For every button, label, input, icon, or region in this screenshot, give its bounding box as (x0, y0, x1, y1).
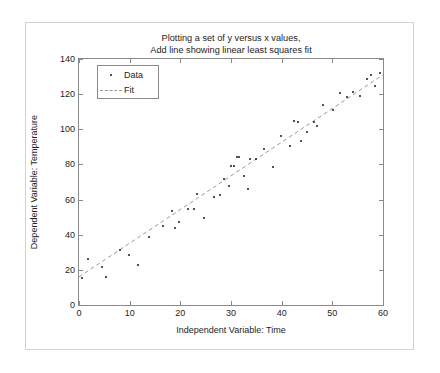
legend-item-fit[interactable]: Fit (98, 82, 158, 98)
data-point (370, 74, 372, 76)
y-axis-tick-label: 140 (60, 54, 75, 64)
data-point (196, 193, 198, 195)
x-axis-tick-label: 50 (327, 308, 337, 318)
chart-title: Plotting a set of y versus x values, Add… (78, 33, 384, 56)
legend-label-fit: Fit (124, 85, 134, 95)
data-point (81, 277, 83, 279)
data-point (230, 165, 232, 167)
legend-marker-dot-icon (98, 69, 124, 81)
data-point (306, 131, 308, 133)
y-axis-tick (379, 305, 383, 306)
data-point (128, 254, 130, 256)
data-point (171, 210, 173, 212)
x-axis-tick (383, 301, 384, 305)
data-point (280, 135, 282, 137)
y-axis-tick (79, 305, 83, 306)
chart-title-line-1: Plotting a set of y versus x values, (78, 33, 384, 45)
data-point (223, 178, 225, 180)
x-axis-tick-label: 10 (125, 308, 135, 318)
data-point (105, 276, 107, 278)
y-axis-label: Dependent Variable: Temperature (29, 115, 39, 249)
data-point (272, 166, 274, 168)
y-axis-tick-label: 100 (60, 124, 75, 134)
y-axis-tick-label: 0 (70, 300, 75, 310)
data-point (374, 85, 376, 87)
y-axis-tick-label: 40 (65, 230, 75, 240)
y-axis-tick-label: 80 (65, 159, 75, 169)
data-point (137, 264, 139, 266)
data-point (359, 95, 361, 97)
data-point (297, 121, 299, 123)
data-point (293, 120, 295, 122)
data-point (346, 96, 348, 98)
data-point (366, 78, 368, 80)
data-point (379, 72, 381, 74)
data-point (339, 92, 341, 94)
data-point (174, 227, 176, 229)
data-point (228, 185, 230, 187)
data-point (313, 121, 315, 123)
plot-area: 0204060801001201400102030405060 Data Fit (78, 58, 384, 306)
data-point (300, 140, 302, 142)
x-axis-tick-label: 60 (378, 308, 388, 318)
x-axis-tick-label: 30 (226, 308, 236, 318)
data-point (219, 194, 221, 196)
data-point (243, 175, 245, 177)
x-axis-tick-label: 20 (175, 308, 185, 318)
legend-item-data[interactable]: Data (98, 67, 158, 83)
data-point (322, 104, 324, 106)
legend-label-data: Data (124, 70, 143, 80)
data-point (101, 266, 103, 268)
x-axis-tick-label: 40 (277, 308, 287, 318)
data-point (316, 125, 318, 127)
data-point (233, 165, 235, 167)
y-axis-tick-label: 20 (65, 265, 75, 275)
x-axis-label: Independent Variable: Time (176, 325, 285, 335)
data-point (352, 91, 354, 93)
x-axis-tick-label: 0 (76, 308, 81, 318)
legend[interactable]: Data Fit (97, 65, 159, 99)
x-axis-tick (383, 59, 384, 63)
data-point (178, 221, 180, 223)
figure-root: Plotting a set of y versus x values, Add… (0, 0, 440, 373)
data-point (162, 225, 164, 227)
data-point (332, 109, 334, 111)
data-point (213, 196, 215, 198)
data-point (247, 188, 249, 190)
data-point (238, 156, 240, 158)
y-axis-tick-label: 120 (60, 89, 75, 99)
data-point (148, 236, 150, 238)
data-point (203, 217, 205, 219)
data-point (289, 145, 291, 147)
legend-line-dashed-icon (98, 84, 124, 96)
chart-title-line-2: Add line showing linear least squares fi… (78, 45, 384, 57)
data-point (193, 208, 195, 210)
y-axis-tick-label: 60 (65, 195, 75, 205)
data-point (249, 158, 251, 160)
data-point (263, 148, 265, 150)
data-point (187, 208, 189, 210)
data-point (255, 158, 257, 160)
data-point (119, 249, 121, 251)
data-point (87, 258, 89, 260)
